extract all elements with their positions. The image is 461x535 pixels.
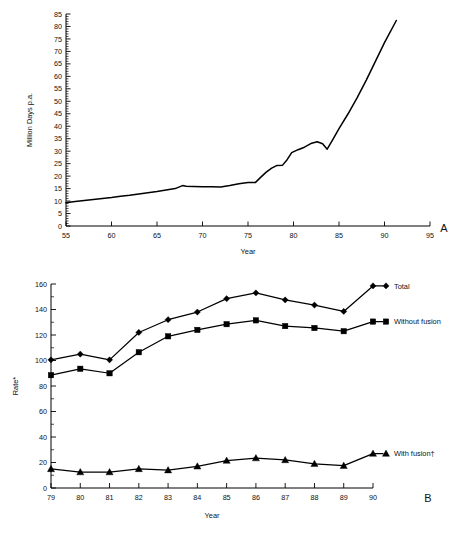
panel-b-y-tick-label: 80: [39, 382, 47, 391]
panel-b-series-3: [47, 450, 376, 475]
panel-b-x-tick-label: 87: [281, 493, 289, 502]
panel-a-y-tick-label: 25: [54, 159, 62, 168]
panel-a-y-tick-label: 50: [54, 97, 62, 106]
panel-b-x-tick-label: 81: [106, 493, 114, 502]
legend-label-3: With fusion†: [394, 449, 435, 458]
panel-a-series-line: [66, 20, 396, 202]
legend-label-1: Total: [394, 282, 410, 291]
panel-b-y-axis-title: Rate*: [11, 377, 20, 396]
panel-b-series-1: [48, 283, 376, 363]
legend-item-2: Without fusion: [373, 317, 441, 326]
panel-b-y-tick-label: 20: [39, 458, 47, 467]
panel-a-letter: A: [440, 222, 448, 234]
panel-a-svg: 0510152025303540455055606570758085556065…: [0, 0, 461, 262]
panel-b-x-tick-label: 86: [252, 493, 260, 502]
panel-b-x-tick-label: 83: [164, 493, 172, 502]
legend-marker-square: [383, 319, 388, 324]
panel-a-y-tick-label: 70: [54, 47, 62, 56]
panel-b-marker-square: [195, 327, 200, 332]
panel-b-y-tick-label: 160: [35, 280, 47, 289]
panel-b-marker-square: [312, 325, 317, 330]
panel-a-y-tick-label: 30: [54, 147, 62, 156]
panel-b-x-tick-label: 84: [193, 493, 201, 502]
panel-b-marker-diamond: [311, 302, 317, 308]
panel-b-marker-diamond: [77, 351, 83, 357]
legend-item-1: Total: [373, 282, 410, 291]
panel-b-x-tick-label: 90: [369, 493, 377, 502]
panel-b-marker-diamond: [165, 317, 171, 323]
panel-a-y-tick-label: 15: [54, 184, 62, 193]
panel-a-y-tick-label: 75: [54, 35, 62, 44]
panel-b-marker-square: [48, 372, 53, 377]
panel-a-y-axis-title: Million Days p.a.: [25, 93, 34, 147]
panel-a-y-tick-label: 60: [54, 72, 62, 81]
panel-a-y-tick-label: 85: [54, 10, 62, 19]
panel-b-marker-diamond: [48, 357, 54, 363]
panel-a-x-tick-label: 75: [244, 231, 252, 240]
panel-b-x-tick-label: 82: [135, 493, 143, 502]
panel-b-marker-square: [78, 366, 83, 371]
panel-b-y-tick-label: 140: [35, 305, 47, 314]
panel-b-x-tick-label: 88: [310, 493, 318, 502]
panel-b-line-1: [51, 286, 373, 360]
panel-a-x-tick-label: 70: [199, 231, 207, 240]
panel-b-marker-square: [224, 321, 229, 326]
panel-b-marker-square: [165, 334, 170, 339]
panel-b-marker-diamond: [194, 309, 200, 315]
panel-a-y-tick-label: 65: [54, 59, 62, 68]
panel-b-y-tick-label: 100: [35, 356, 47, 365]
panel-a-x-tick-label: 85: [335, 231, 343, 240]
panel-b-x-tick-label: 85: [223, 493, 231, 502]
panel-a-y-tick-label: 35: [54, 134, 62, 143]
panel-a-x-tick-label: 60: [108, 231, 116, 240]
panel-b-y-tick-label: 120: [35, 331, 47, 340]
chart-panel-a: 0510152025303540455055606570758085556065…: [0, 0, 461, 262]
panel-a-y-tick-label: 45: [54, 109, 62, 118]
panel-b-y-tick-label: 40: [39, 433, 47, 442]
legend-item-3: With fusion†: [373, 449, 435, 458]
panel-a-y-tick-label: 0: [58, 222, 62, 231]
legend-label-2: Without fusion: [394, 317, 441, 326]
panel-b-svg: 0204060801001201401607980818283848586878…: [0, 262, 461, 535]
panel-b-line-2: [51, 320, 373, 375]
panel-b-marker-square: [107, 371, 112, 376]
panel-b-y-tick-label: 60: [39, 407, 47, 416]
panel-a-x-tick-label: 55: [62, 231, 70, 240]
legend-marker-triangle: [382, 450, 389, 456]
panel-b-marker-square: [253, 318, 258, 323]
panel-a-y-tick-label: 55: [54, 84, 62, 93]
panel-b-marker-square: [136, 349, 141, 354]
panel-b-x-axis-title: Year: [205, 511, 220, 520]
panel-b-letter: B: [424, 492, 431, 504]
panel-a-x-tick-label: 80: [290, 231, 298, 240]
panel-b-x-tick-label: 89: [340, 493, 348, 502]
panel-a-y-tick-label: 80: [54, 22, 62, 31]
chart-panel-b: 0204060801001201401607980818283848586878…: [0, 262, 461, 535]
panel-a-y-tick-label: 40: [54, 122, 62, 131]
panel-a-y-tick-label: 10: [54, 197, 62, 206]
panel-b-marker-diamond: [253, 290, 259, 296]
panel-b-y-tick-label: 0: [43, 484, 47, 493]
panel-b-x-tick-label: 80: [76, 493, 84, 502]
panel-b-marker-square: [282, 323, 287, 328]
panel-b-marker-square: [341, 328, 346, 333]
panel-b-marker-triangle: [47, 465, 54, 471]
figure-container: 0510152025303540455055606570758085556065…: [0, 0, 461, 535]
legend-marker-diamond: [383, 283, 389, 289]
panel-b-x-tick-label: 79: [47, 493, 55, 502]
panel-b-marker-diamond: [224, 296, 230, 302]
panel-a-x-tick-label: 90: [381, 231, 389, 240]
panel-b-series-2: [48, 318, 375, 378]
panel-a-x-axis-title: Year: [241, 247, 256, 256]
panel-a-y-tick-label: 5: [58, 209, 62, 218]
panel-a-y-tick-label: 20: [54, 172, 62, 181]
panel-b-line-3: [51, 454, 373, 472]
panel-b-marker-diamond: [282, 297, 288, 303]
panel-a-x-tick-label: 95: [426, 231, 434, 240]
panel-a-x-tick-label: 65: [153, 231, 161, 240]
